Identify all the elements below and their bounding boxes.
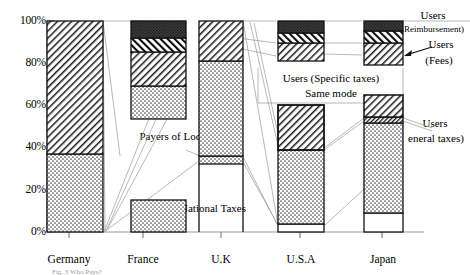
bar-segment-usa-national-taxes[interactable] [278,224,324,232]
fees-callout-arrow [404,47,432,56]
bar-france[interactable] [131,21,186,232]
bar-segment-uk-specific-taxes[interactable] [199,21,243,61]
bar-segment-germany-specific-taxes[interactable] [47,21,103,154]
bar-segment-japan-specific-taxes[interactable] [364,43,403,65]
bar-segment-france-fees[interactable] [131,38,186,52]
bar-segment-japan-local-taxes[interactable] [364,123,403,213]
bar-segment-uk-national-taxes[interactable] [199,156,243,164]
bar-segment-uk-local-taxes[interactable] [199,61,243,156]
bar-usa[interactable] [278,21,324,232]
bar-segment-usa-reimbursement[interactable] [278,21,324,33]
bar-segment-usa-fees[interactable] [278,33,324,43]
x-axis [47,232,424,238]
bar-uk[interactable] [199,21,243,232]
bar-segment-france-specific-taxes[interactable] [131,52,186,86]
bar-segment-germany-local-taxes[interactable] [47,154,103,232]
bar-germany[interactable] [47,21,103,232]
bar-segment-japan-general-taxes[interactable] [364,117,403,123]
chart-plot-svg [0,0,470,275]
bar-japan[interactable] [364,21,403,232]
bar-segment-japan-fees[interactable] [364,31,403,43]
chart-container: 100% 80% 60% 40% 20% 0% Germany France U… [0,0,470,275]
bar-segment-japan-national-taxes[interactable] [364,213,403,232]
bar-segment-usa-specific-taxes[interactable] [278,43,324,61]
bar-segment-france-local-taxes[interactable] [131,86,186,119]
bar-segment-france-national-taxes[interactable] [131,200,186,232]
bar-segment-usa-local-taxes[interactable] [278,150,324,224]
bar-segment-japan-same-mode[interactable] [364,95,403,117]
bar-segment-usa-same-mode[interactable] [278,105,324,150]
bar-segment-japan-reimbursement[interactable] [364,21,403,31]
bar-segment-france-reimbursement[interactable] [131,21,186,38]
